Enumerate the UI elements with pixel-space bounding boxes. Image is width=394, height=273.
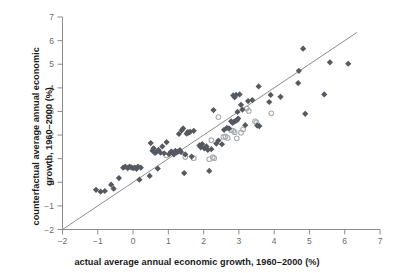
y-tick-label: 7: [32, 13, 54, 22]
y-axis-title: counterfactual average annual economic g…: [30, 21, 57, 251]
data-point: [136, 177, 142, 183]
scatter-plot-canvas: [0, 0, 394, 273]
data-point: [238, 102, 244, 108]
data-point: [302, 111, 308, 117]
data-point: [234, 136, 239, 141]
x-tick-label: 7: [378, 237, 383, 246]
data-point: [147, 173, 153, 179]
x-tick-label: 2: [201, 237, 206, 246]
x-axis-title: actual average annual economic growth, 1…: [0, 257, 394, 267]
x-tick-label: 3: [237, 237, 242, 246]
data-point: [189, 153, 195, 159]
y-tick-marks: [58, 17, 63, 230]
reference-line: [63, 32, 358, 229]
data-point: [268, 92, 274, 98]
data-point: [269, 111, 274, 116]
data-point: [249, 97, 255, 103]
data-point: [277, 94, 283, 100]
data-point: [327, 59, 333, 65]
x-tick-label: −1: [93, 237, 103, 246]
x-tick-label: 0: [131, 237, 136, 246]
data-point: [210, 107, 216, 113]
x-tick-label: 6: [342, 237, 347, 246]
data-point: [148, 140, 154, 146]
data-point: [209, 138, 214, 143]
x-tick-marks: [63, 230, 381, 235]
data-point: [266, 99, 272, 105]
data-point: [206, 168, 212, 174]
data-point: [216, 115, 221, 120]
data-point: [295, 80, 301, 86]
x-tick-label: 1: [166, 237, 171, 246]
data-point: [155, 165, 161, 171]
data-point: [321, 91, 327, 97]
x-tick-label: 5: [307, 237, 312, 246]
data-point: [116, 175, 122, 181]
x-tick-label: 4: [272, 237, 277, 246]
data-points-filled: [93, 46, 351, 195]
data-point: [181, 170, 187, 176]
data-point: [345, 61, 351, 67]
x-tick-label: −2: [58, 237, 68, 246]
y-axis-title-line-1: counterfactual average annual economic: [30, 21, 43, 251]
data-point: [300, 46, 306, 52]
data-point: [102, 188, 108, 194]
data-point: [163, 139, 169, 145]
data-point: [212, 156, 217, 161]
chart-figure: −2−101234567 −2−101234567 counterfactual…: [0, 0, 394, 273]
data-point: [256, 83, 262, 89]
y-axis-title-line-2: growth, 1960–2000 (%): [43, 21, 56, 251]
